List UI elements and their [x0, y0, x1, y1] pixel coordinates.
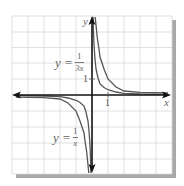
fraction: 1 x [73, 127, 78, 148]
numerator: 1 [77, 52, 82, 61]
fraction: 1 3x [75, 52, 84, 73]
x-tick-label: 1 [105, 98, 110, 108]
equation-lhs: y = [53, 130, 71, 146]
y-tick-label: 1 [83, 74, 88, 84]
y-axis-label: y [83, 16, 88, 27]
graph-canvas [0, 0, 184, 186]
denominator: x [73, 139, 77, 148]
numerator: 1 [73, 127, 78, 136]
equation-lhs: y = [55, 55, 73, 71]
denominator: 3x [75, 64, 84, 73]
x-axis-label: x [164, 97, 169, 108]
